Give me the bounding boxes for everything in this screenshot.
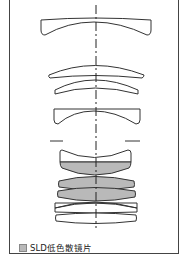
lens-element-4 [54,109,140,124]
lens-diagram [0,0,188,264]
legend-label-sld: SLD低色散镜片 [30,243,92,253]
sld-swatch [19,244,27,252]
legend: SLD低色散镜片 [19,242,92,254]
